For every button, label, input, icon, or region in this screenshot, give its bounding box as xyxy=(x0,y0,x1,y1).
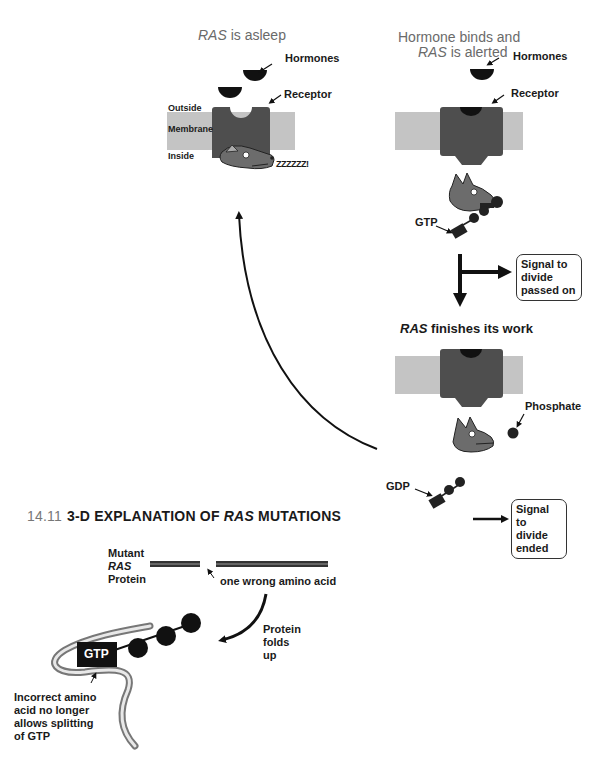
panel-alerted-graphics xyxy=(395,58,523,300)
signal-ended-box: Signal to divide ended xyxy=(511,499,567,559)
panel-finishes-title: RAS finishes its work xyxy=(400,320,533,337)
hormone-icon xyxy=(470,69,494,80)
membrane-label: Membrane xyxy=(168,124,213,135)
panel-finishes-graphics xyxy=(395,349,524,519)
gtp-block-label: GTP xyxy=(84,648,109,661)
gdp-molecule-icon xyxy=(428,477,465,509)
gtp-label: GTP xyxy=(415,216,438,229)
hormones-label: Hormones xyxy=(513,50,567,63)
hormone-icon xyxy=(218,87,242,98)
title-rest: is alerted xyxy=(447,44,508,60)
hormones-label: Hormones xyxy=(285,52,339,65)
mutant-protein-label-line3: Protein xyxy=(108,573,146,586)
phosphate-ball-2 xyxy=(156,626,176,646)
phosphate-label: Phosphate xyxy=(525,400,581,413)
title-ras-italic: RAS xyxy=(418,44,447,60)
signal-passed-on-box: Signal to divide passed on xyxy=(516,254,582,301)
receptor-label: Receptor xyxy=(284,88,332,101)
wrong-amino-acid-segment xyxy=(200,561,216,567)
mutant-protein-label-line2: RAS xyxy=(108,560,131,573)
receptor-label: Receptor xyxy=(511,87,559,100)
ras-head-done-icon xyxy=(453,417,494,452)
title-ras-italic: RAS xyxy=(400,321,427,336)
phosphate-icon xyxy=(508,428,519,439)
gdp-label: GDP xyxy=(386,480,410,493)
incorrect-amino-acid-label: Incorrect amino acid no longer allows sp… xyxy=(14,691,97,743)
cycle-arrow xyxy=(239,215,377,449)
title-rest: finishes its work xyxy=(427,321,532,336)
inside-label: Inside xyxy=(168,151,194,162)
folds-arrow xyxy=(222,594,266,640)
protein-folds-label: Protein folds up xyxy=(263,623,301,662)
hormone-icon xyxy=(243,70,267,81)
figure-title-pre: 3-D EXPLANATION OF xyxy=(67,508,224,524)
outside-label: Outside xyxy=(168,103,202,114)
phosphate-ball-1 xyxy=(128,638,148,658)
snore-text: ZZZZZZ! xyxy=(276,159,308,170)
ras-head-alert-icon xyxy=(449,173,503,211)
title-rest: is asleep xyxy=(227,27,286,43)
figure-title-post: MUTATIONS xyxy=(254,508,341,524)
panel-alerted-title-line2: RAS is alerted xyxy=(418,44,508,61)
mutant-protein-label-line1: Mutant xyxy=(108,547,144,560)
wrong-amino-acid-label: one wrong amino acid xyxy=(220,575,336,588)
figure-title-italic: RAS xyxy=(224,508,254,524)
title-ras-italic: RAS xyxy=(198,27,227,43)
figure-number: 14.11 xyxy=(27,508,62,524)
phosphate-ball-3 xyxy=(181,613,201,633)
panel-asleep-title: RAS is asleep xyxy=(198,27,286,44)
figure-title: 14.113-D EXPLANATION OF RAS MUTATIONS xyxy=(27,508,341,524)
